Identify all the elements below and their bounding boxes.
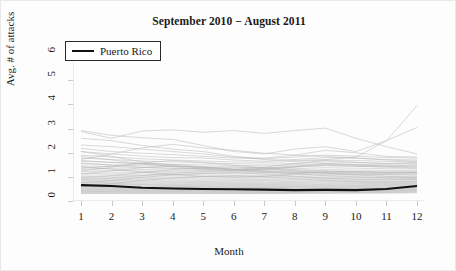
x-tick-mark	[173, 201, 174, 206]
x-tick-label: 9	[313, 210, 337, 222]
x-axis-label: Month	[1, 245, 456, 257]
x-tick-mark	[386, 201, 387, 206]
legend-label: Puerto Rico	[100, 45, 152, 57]
x-tick-mark	[203, 201, 204, 206]
y-tick-label: 4	[45, 95, 57, 111]
x-tick-mark	[142, 201, 143, 206]
x-tick-label: 5	[191, 210, 215, 222]
x-tick-label: 7	[252, 210, 276, 222]
x-tick-label: 6	[222, 210, 246, 222]
x-tick-mark	[295, 201, 296, 206]
y-tick-label: 3	[45, 120, 57, 136]
series-lines	[73, 49, 425, 201]
x-tick-label: 3	[130, 210, 154, 222]
x-tick-label: 2	[100, 210, 124, 222]
x-tick-mark	[325, 201, 326, 206]
x-tick-label: 8	[283, 210, 307, 222]
y-axis-label: Avg. # of attacks	[4, 0, 16, 129]
plot-area	[73, 49, 425, 201]
x-tick-mark	[234, 201, 235, 206]
legend: Puerto Rico	[65, 41, 161, 61]
x-tick-mark	[417, 201, 418, 206]
y-tick-mark	[68, 201, 73, 202]
legend-line-swatch	[72, 50, 94, 52]
x-tick-label: 1	[69, 210, 93, 222]
x-tick-mark	[264, 201, 265, 206]
y-tick-label: 5	[45, 71, 57, 87]
y-tick-label: 1	[45, 168, 57, 184]
chart-title: September 2010 − August 2011	[1, 15, 456, 27]
x-tick-mark	[81, 201, 82, 206]
x-tick-label: 4	[161, 210, 185, 222]
x-tick-label: 10	[344, 210, 368, 222]
series-line	[81, 106, 417, 161]
x-tick-label: 11	[374, 210, 398, 222]
y-tick-label: 6	[45, 47, 57, 63]
chart-figure: September 2010 − August 2011 Avg. # of a…	[0, 0, 456, 271]
x-tick-mark	[356, 201, 357, 206]
x-tick-label: 12	[405, 210, 429, 222]
x-tick-mark	[112, 201, 113, 206]
y-tick-label: 2	[45, 144, 57, 160]
y-tick-label: 0	[45, 192, 57, 208]
